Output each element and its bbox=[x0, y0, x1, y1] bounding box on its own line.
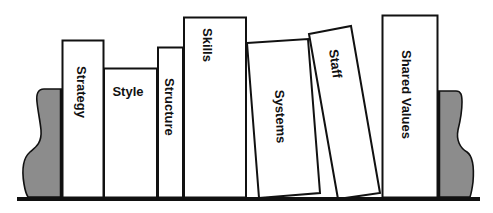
book-label-structure: Structure bbox=[162, 78, 177, 136]
book-shared-values: Shared Values bbox=[383, 16, 438, 198]
shelf bbox=[17, 197, 480, 201]
right-bookend bbox=[438, 91, 473, 197]
book-label-style: Style bbox=[112, 84, 143, 99]
book-staff: Staff bbox=[309, 26, 380, 199]
book-strategy: Strategy bbox=[63, 41, 104, 198]
book-structure: Structure bbox=[158, 48, 183, 198]
book-label-shared-values: Shared Values bbox=[399, 50, 414, 139]
book-skills: Skills bbox=[184, 18, 246, 198]
book-label-strategy: Strategy bbox=[74, 66, 89, 119]
book-systems: Systems bbox=[247, 39, 320, 198]
bookshelf-diagram: Strategy Style Structure Skills Systems … bbox=[0, 0, 493, 213]
left-bookend bbox=[23, 89, 62, 197]
book-label-systems: Systems bbox=[272, 90, 289, 144]
book-style: Style bbox=[104, 69, 157, 198]
book-label-skills: Skills bbox=[200, 28, 215, 62]
